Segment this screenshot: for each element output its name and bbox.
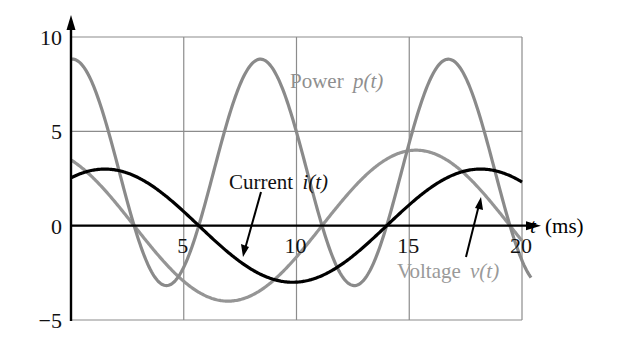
y-tick-label: −5 (39, 308, 62, 333)
y-tick-label: 5 (51, 119, 62, 144)
voltage-arrow-icon (466, 197, 483, 257)
y-tick-label: 10 (40, 25, 62, 50)
x-tick-label: 15 (397, 233, 419, 258)
x-tick-label: 5 (177, 233, 188, 258)
voltage-label: Voltage v(t) (397, 259, 499, 283)
y-axis-arrow-icon (67, 15, 76, 30)
y-tick-label: 0 (51, 214, 62, 239)
current-label: Current i(t) (229, 170, 328, 194)
x-tick-label: 10 (285, 233, 307, 258)
x-tick-label: 20 (510, 233, 532, 258)
power-label: Power p(t) (290, 69, 383, 93)
power-voltage-current-chart: −505105101520 t (ms) Power p(t) Current … (0, 0, 635, 352)
x-axis-label: t (ms) (530, 214, 584, 238)
